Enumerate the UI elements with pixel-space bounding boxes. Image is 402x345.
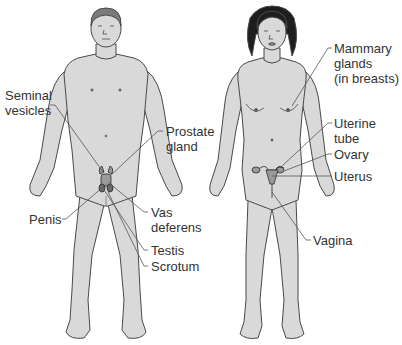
label-ovary: Ovary xyxy=(334,147,369,162)
label-vagina: Vagina xyxy=(313,233,353,248)
label-testis: Testis xyxy=(151,243,184,258)
male-figure xyxy=(30,8,183,338)
label-uterus: Uterus xyxy=(334,169,372,184)
label-scrotum: Scrotum xyxy=(151,259,199,274)
label-seminal-vesicles: Seminal vesicles xyxy=(5,88,52,118)
label-mammary-glands: Mammary glands (in breasts) xyxy=(334,41,399,86)
label-uterine-tube: Uterine tube xyxy=(334,116,376,146)
label-prostate-gland: Prostate gland xyxy=(166,124,214,154)
female-figure xyxy=(210,6,335,339)
label-penis: Penis xyxy=(29,212,62,227)
label-vas-deferens: Vas deferens xyxy=(151,205,202,235)
